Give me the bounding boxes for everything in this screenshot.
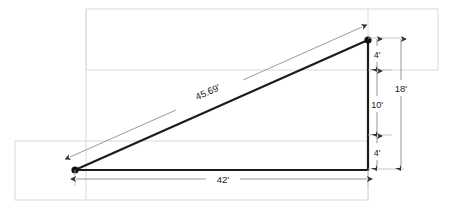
dimension-rise-total: 18' (395, 39, 408, 168)
dimension-hypotenuse: 45.69' (70, 27, 362, 157)
dimension-run: 42' (75, 170, 368, 186)
triangle-shape (75, 40, 368, 170)
triangle-hypotenuse (75, 40, 368, 170)
ghost-rect-upper (86, 9, 438, 70)
diagram-canvas: 45.69' 4' 10' 4' (0, 0, 449, 207)
run-dim-label: 42' (217, 174, 230, 185)
hypotenuse-dim-label: 45.69' (194, 82, 222, 102)
hypotenuse-dim-line-b (243, 27, 362, 80)
right-vertex-node (364, 36, 371, 43)
dimension-rise-lower: 4' (374, 136, 381, 168)
triangle-dimension-diagram: 45.69' 4' 10' 4' (0, 0, 449, 207)
rise-lower-dim-label: 4' (374, 148, 381, 158)
rise-middle-dim-label: 10' (371, 100, 383, 110)
rise-total-dim-label: 18' (395, 83, 408, 94)
dimension-rise-middle: 10' (371, 71, 383, 134)
dimension-rise-upper: 4' (374, 39, 381, 69)
rise-upper-dim-label: 4' (374, 50, 381, 60)
